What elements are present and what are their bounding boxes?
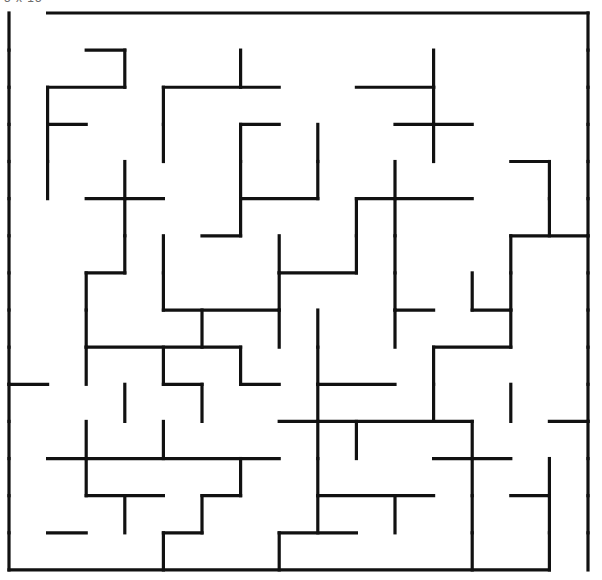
- maze-diagram: [0, 0, 602, 580]
- maze-page: 5 x 15: [0, 0, 602, 580]
- maze-wall-group: [9, 13, 588, 570]
